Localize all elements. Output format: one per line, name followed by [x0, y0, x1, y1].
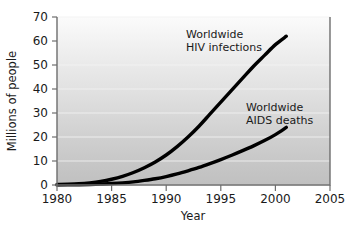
y-tick-label-40: 40 [33, 82, 48, 96]
x-tick-label-2005: 2005 [315, 192, 346, 206]
hiv-annotation-line2: HIV infections [186, 41, 262, 54]
y-tick-label-60: 60 [33, 34, 48, 48]
x-tick-label-1980: 1980 [42, 192, 73, 206]
x-tick-label-1985: 1985 [96, 192, 127, 206]
hiv-annotation-line1: Worldwide [186, 28, 244, 41]
aids-annotation-line1: Worldwide [246, 101, 304, 114]
aids-annotation-line2: AIDS deaths [246, 114, 313, 127]
y-tick-label-20: 20 [33, 130, 48, 144]
line-chart: 0 10 20 30 40 50 60 70 1980 1985 1990 19… [0, 0, 352, 228]
y-axis-title: Millions of people [5, 51, 19, 151]
x-tick-label-1990: 1990 [151, 192, 182, 206]
y-tick-label-30: 30 [33, 106, 48, 120]
chart-figure: 0 10 20 30 40 50 60 70 1980 1985 1990 19… [0, 0, 352, 228]
x-tick-label-1995: 1995 [206, 192, 237, 206]
y-tick-label-10: 10 [33, 154, 48, 168]
y-tick-label-70: 70 [33, 10, 48, 24]
x-axis-title: Year [180, 209, 206, 223]
y-tick-label-50: 50 [33, 58, 48, 72]
y-tick-label-0: 0 [40, 178, 48, 192]
y-axis-ticks [52, 17, 57, 185]
x-tick-label-2000: 2000 [260, 192, 291, 206]
